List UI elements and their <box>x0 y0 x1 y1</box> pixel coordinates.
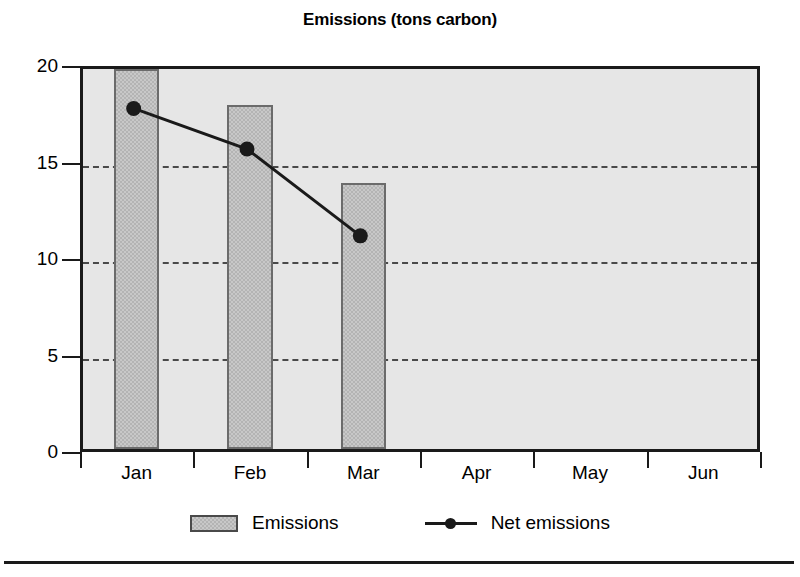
legend-label-net-emissions: Net emissions <box>491 512 610 534</box>
x-axis-tick-label: Feb <box>234 462 267 484</box>
x-axis-tick-label: Mar <box>347 462 380 484</box>
bar-swatch-icon <box>190 515 238 532</box>
x-axis-tick-mark <box>760 452 762 468</box>
x-axis-tick-mark <box>80 452 82 468</box>
x-axis-tick-mark <box>647 452 649 468</box>
y-axis-tick-mark <box>62 259 80 261</box>
y-axis-tick-label: 0 <box>0 441 58 463</box>
net-emissions-marker <box>240 141 255 156</box>
y-axis-tick-label: 20 <box>0 55 58 77</box>
x-axis-tick-mark <box>307 452 309 468</box>
chart-title: Emissions (tons carbon) <box>0 10 800 30</box>
x-axis-tick-mark <box>193 452 195 468</box>
x-axis-tick-mark <box>533 452 535 468</box>
y-axis-tick-label: 15 <box>0 152 58 174</box>
legend-item-net-emissions: Net emissions <box>425 512 610 534</box>
footer-divider <box>4 561 794 564</box>
chart-figure: Emissions (tons carbon) 05101520 JanFebM… <box>0 0 800 577</box>
x-axis-tick-label: May <box>572 462 608 484</box>
y-axis-tick-mark <box>62 66 80 68</box>
net-emissions-marker <box>126 101 141 116</box>
y-axis-tick-mark <box>62 356 80 358</box>
x-axis-tick-label: Apr <box>462 462 492 484</box>
chart-legend: Emissions Net emissions <box>0 512 800 534</box>
y-axis-tick-mark <box>62 163 80 165</box>
net-emissions-line-series <box>80 66 760 452</box>
x-axis-tick-label: Jan <box>121 462 152 484</box>
legend-item-emissions: Emissions <box>190 512 339 534</box>
x-axis-tick-mark <box>420 452 422 468</box>
y-axis-tick-label: 10 <box>0 248 58 270</box>
y-axis-tick-mark <box>62 452 80 454</box>
x-axis-tick-label: Jun <box>688 462 719 484</box>
line-marker-swatch-icon <box>425 516 477 530</box>
net-emissions-line <box>134 108 361 235</box>
legend-label-emissions: Emissions <box>252 512 339 534</box>
net-emissions-marker <box>353 228 368 243</box>
y-axis-tick-label: 5 <box>0 345 58 367</box>
